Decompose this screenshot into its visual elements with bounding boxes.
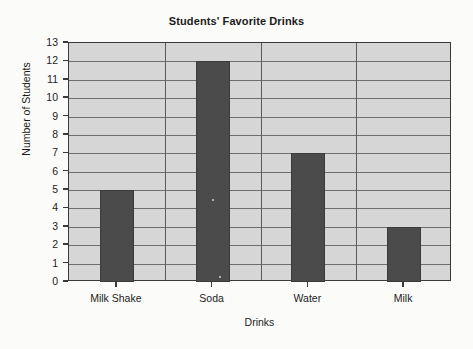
y-axis-tick-mark [63,225,68,227]
chart-title: Students' Favorite Drinks [0,15,473,27]
plot-area [68,42,451,281]
y-axis-tick-label: 4 [32,202,58,212]
y-axis-tick-label: 5 [32,184,58,194]
y-axis-tick-mark [63,188,68,190]
gridline-horizontal [69,153,450,154]
y-axis-tick-label: 7 [32,147,58,157]
gridline-horizontal [69,61,450,62]
y-axis-tick-label: 9 [32,111,58,121]
y-axis-tick-mark [63,207,68,209]
y-axis-tick-mark [63,115,68,117]
x-axis-tick-mark [211,281,213,287]
x-axis-tick-mark [115,281,117,287]
x-axis-title: Drinks [68,316,451,328]
y-axis-tick-mark [63,96,68,98]
gridline-vertical [165,43,166,280]
y-axis-tick-mark [63,60,68,62]
bar [196,61,230,282]
y-axis-tick-label: 0 [32,276,58,286]
x-axis-tick-label: Milk Shake [68,292,164,304]
y-axis-tick-label: 3 [32,221,58,231]
bar [100,190,134,282]
bar-chart-figure: Students' Favorite Drinks Number of Stud… [0,0,473,349]
x-axis-tick-label: Milk [355,292,451,304]
y-axis-tick-mark [63,133,68,135]
y-axis-tick-mark [63,152,68,154]
gridline-vertical [261,43,262,280]
gridline-horizontal [69,80,450,81]
gridline-vertical [356,43,357,280]
scan-speck [219,276,221,278]
y-axis-tick-mark [63,78,68,80]
bar [291,153,325,282]
x-axis-tick-label: Soda [164,292,260,304]
y-axis-tick-label: 11 [32,74,58,84]
x-axis-tick-label: Water [259,292,355,304]
y-axis-tick-mark [63,170,68,172]
y-axis-tick-label: 6 [32,166,58,176]
gridline-horizontal [69,135,450,136]
x-axis-tick-mark [307,281,309,287]
y-axis-tick-label: 10 [32,92,58,102]
gridline-horizontal [69,98,450,99]
y-axis-tick-label: 12 [32,55,58,65]
y-axis-tick-mark [63,243,68,245]
y-axis-tick-mark [63,41,68,43]
gridline-horizontal [69,117,450,118]
y-axis-tick-label: 8 [32,129,58,139]
y-axis-tick-label: 1 [32,258,58,268]
x-axis-tick-mark [402,281,404,287]
bar [387,227,421,282]
y-axis-tick-label: 2 [32,239,58,249]
y-axis-tick-mark [63,280,68,282]
y-axis-tick-label: 13 [32,37,58,47]
y-axis-title: Number of Students [20,39,32,179]
gridline-horizontal [69,172,450,173]
y-axis-tick-mark [63,262,68,264]
